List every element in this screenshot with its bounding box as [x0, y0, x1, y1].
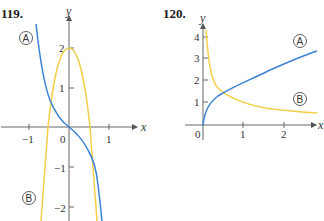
y-tick--2: −2 — [54, 202, 66, 214]
y-axis-label: y — [199, 11, 206, 25]
curve-label-b-119: B — [26, 193, 33, 204]
x-tick-1: 1 — [106, 133, 112, 145]
y-tick-4: 4 — [194, 31, 200, 43]
curve-label-a-119: A — [23, 33, 30, 44]
y-tick-1: 1 — [59, 82, 65, 94]
curve-a-120 — [203, 51, 317, 125]
y-tick--1: −1 — [54, 162, 66, 174]
charts-canvas: x y −1 0 1 2 1 −1 −2 A B x y — [0, 0, 324, 221]
x-tick-0: 0 — [195, 128, 201, 140]
chart-120: x y 0 1 2 4 3 2 1 A B — [185, 11, 324, 140]
y-tick-2: 2 — [194, 74, 200, 86]
x-tick--1: −1 — [22, 133, 34, 145]
chart-119: x y −1 0 1 2 1 −1 −2 A B — [1, 4, 147, 221]
x-axis-label: x — [140, 120, 147, 134]
x-tick-2: 2 — [281, 128, 287, 140]
x-tick-0: 0 — [60, 133, 66, 145]
curve-label-a-120: A — [297, 36, 304, 47]
y-axis-label: y — [65, 4, 72, 18]
curve-label-b-120: B — [297, 94, 304, 105]
x-axis-label: x — [317, 118, 324, 132]
x-tick-1: 1 — [240, 128, 246, 140]
y-tick-3: 3 — [194, 52, 200, 64]
y-tick-1: 1 — [194, 96, 200, 108]
